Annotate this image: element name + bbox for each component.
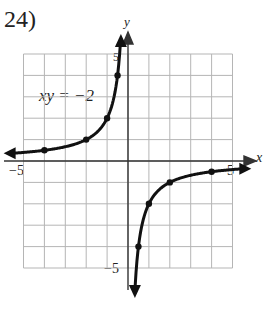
data-point: [114, 72, 120, 78]
data-point: [208, 169, 214, 175]
axes: [4, 32, 256, 290]
data-point: [41, 147, 47, 153]
data-point: [83, 136, 89, 142]
graph: [0, 0, 266, 322]
data-point: [167, 179, 173, 185]
data-point: [104, 115, 110, 121]
data-point: [135, 243, 141, 249]
hyperbola-curve: [11, 40, 243, 286]
data-point: [146, 201, 152, 207]
